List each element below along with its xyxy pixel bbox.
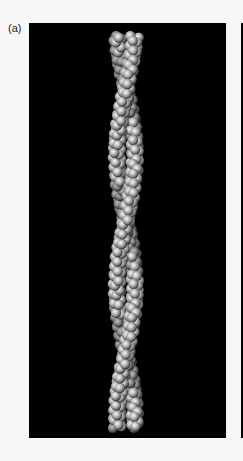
coiled-coil-molecule (0, 0, 243, 461)
atom-sphere (123, 69, 133, 79)
atom-sphere (128, 135, 138, 145)
atom-sphere (120, 359, 130, 369)
atom-sphere (123, 205, 133, 215)
atom-sphere (113, 140, 123, 150)
atom-sphere (112, 266, 122, 276)
atom-sphere (116, 116, 126, 126)
atom-sphere (112, 167, 122, 177)
atom-sphere (112, 410, 122, 420)
atom-sphere (126, 322, 136, 332)
atom-sphere (128, 168, 138, 178)
atom-sphere (115, 373, 125, 383)
atom-sphere (121, 349, 131, 359)
atom-sphere (124, 196, 134, 206)
atom-sphere (127, 252, 137, 262)
atom-sphere (115, 383, 125, 393)
atom-sphere (129, 412, 139, 422)
atom-sphere (128, 279, 138, 289)
atom-sphere (130, 288, 140, 298)
atom-sphere (114, 32, 124, 42)
atom-sphere (128, 45, 138, 55)
atom-sphere (113, 420, 123, 430)
atom-sphere (122, 79, 132, 89)
atom-sphere (128, 388, 138, 398)
atom-sphere (121, 340, 131, 350)
atom-sphere (130, 144, 140, 154)
atom-sphere (116, 106, 126, 116)
atom-sphere (117, 239, 127, 249)
atom-sphere (117, 229, 127, 239)
atom-sphere (130, 421, 140, 431)
atom-sphere (122, 215, 132, 225)
atom-sphere (127, 312, 137, 322)
atom-sphere (128, 36, 138, 46)
atom-sphere (121, 88, 131, 98)
atom-sphere (113, 276, 123, 286)
atom-sphere (113, 300, 123, 310)
